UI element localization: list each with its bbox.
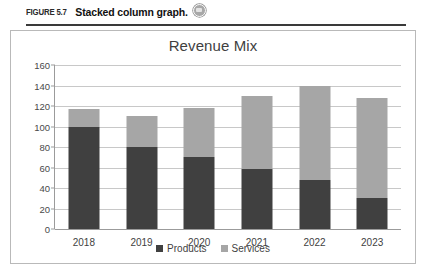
figure-number: FIGURE 5.7 (26, 7, 67, 17)
bar-segment-services-2019[interactable] (126, 116, 157, 147)
gridline-0 (55, 229, 401, 230)
bar-stack[interactable] (241, 96, 272, 229)
bar-series-layer: 201820192020202120222023 (55, 65, 401, 229)
y-tick-label-20: 20 (39, 203, 50, 214)
plot-area: 020406080100120140160 201820192020202120… (55, 65, 401, 229)
bar-segment-services-2023[interactable] (357, 98, 388, 198)
figure-caption: FIGURE 5.7 Stacked column graph. (26, 5, 206, 18)
bar-segment-products-2018[interactable] (68, 127, 99, 230)
bar-segment-products-2019[interactable] (126, 147, 157, 229)
y-tick-label-160: 160 (34, 60, 50, 71)
media-badge-icon (193, 4, 206, 17)
bar-segment-services-2020[interactable] (184, 108, 215, 157)
bar-stack[interactable] (184, 108, 215, 229)
bar-group-2021[interactable]: 2021 (228, 65, 286, 229)
chart-legend: ProductsServices (11, 243, 415, 254)
bar-group-2023[interactable]: 2023 (343, 65, 401, 229)
bar-segment-products-2022[interactable] (299, 180, 330, 229)
chart-container: Revenue Mix 020406080100120140160 201820… (10, 30, 416, 264)
bar-stack[interactable] (126, 116, 157, 229)
bar-segment-products-2021[interactable] (241, 169, 272, 229)
bar-group-2019[interactable]: 2019 (113, 65, 171, 229)
bar-stack[interactable] (68, 109, 99, 229)
bar-segment-products-2020[interactable] (184, 157, 215, 229)
bar-segment-services-2022[interactable] (299, 86, 330, 180)
legend-item-products[interactable]: Products (156, 243, 206, 254)
legend-label-services: Services (232, 243, 270, 254)
bar-segment-services-2018[interactable] (68, 109, 99, 126)
y-tick-label-0: 0 (45, 224, 50, 235)
legend-item-services[interactable]: Services (221, 243, 270, 254)
y-tick-label-80: 80 (39, 142, 50, 153)
legend-label-products: Products (167, 243, 206, 254)
y-tick-label-40: 40 (39, 183, 50, 194)
legend-swatch-services (221, 245, 228, 252)
bar-stack[interactable] (357, 98, 388, 229)
y-tick-label-140: 140 (34, 80, 50, 91)
caption-divider (26, 24, 406, 26)
chart-title: Revenue Mix (11, 37, 415, 54)
bar-stack[interactable] (299, 86, 330, 229)
figure-caption-text: Stacked column graph. (75, 6, 187, 18)
bar-segment-services-2021[interactable] (241, 96, 272, 169)
bar-group-2018[interactable]: 2018 (55, 65, 113, 229)
y-tick-label-120: 120 (34, 101, 50, 112)
bar-group-2022[interactable]: 2022 (286, 65, 344, 229)
bar-group-2020[interactable]: 2020 (170, 65, 228, 229)
bar-segment-products-2023[interactable] (357, 198, 388, 229)
y-tick-label-100: 100 (34, 121, 50, 132)
legend-swatch-products (156, 245, 163, 252)
y-tick-label-60: 60 (39, 162, 50, 173)
